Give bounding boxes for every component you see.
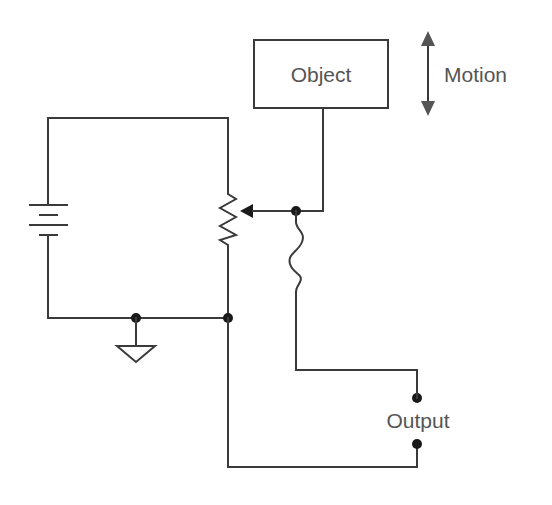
potentiometer-icon	[220, 190, 236, 318]
output-terminal-bottom	[412, 439, 422, 449]
top-wire	[48, 118, 228, 201]
return-wire	[228, 318, 417, 467]
flexible-lead-icon	[289, 211, 417, 384]
wiper-arrow-icon	[240, 204, 296, 218]
ground-icon	[117, 318, 155, 362]
output-label: Output	[386, 409, 449, 432]
battery-icon	[30, 201, 67, 318]
object-link-wire	[296, 108, 323, 211]
motion-label: Motion	[444, 63, 507, 86]
circuit-diagram: Object Motion Output	[0, 0, 552, 505]
motion-arrow-icon	[421, 31, 435, 116]
object-label: Object	[291, 63, 352, 86]
object-block: Object	[254, 40, 388, 108]
